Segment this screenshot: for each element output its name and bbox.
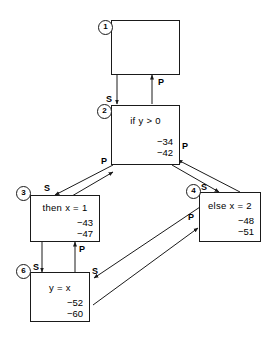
node-4-value-1: −51 xyxy=(238,226,254,237)
edge-label-n1-to-n2-s: S xyxy=(106,95,112,104)
node-6[interactable]: y = x −52 −60 xyxy=(30,272,90,322)
edge-label-n2-to-n1-p: P xyxy=(158,78,164,87)
flow-graph-diagram: 1 if y > 0 −34 −42 2 then x = 1 −43 −47 … xyxy=(0,0,279,345)
node-4-values: −48 −51 xyxy=(238,215,254,237)
node-3[interactable]: then x = 1 −43 −47 xyxy=(30,195,100,242)
edge-label-n4-to-n2-p: P xyxy=(182,142,188,151)
node-6-label: y = x xyxy=(31,282,89,293)
edge-n4-to-n6 xyxy=(94,207,200,278)
edge-label-n6-to-n4-p: P xyxy=(188,213,194,222)
node-4-label: else x = 2 xyxy=(200,200,260,211)
node-1-marker: 1 xyxy=(98,20,113,35)
node-3-marker: 3 xyxy=(16,186,31,201)
node-2-value-1: −42 xyxy=(157,147,173,158)
edge-label-n6-to-n3-p: P xyxy=(79,245,85,254)
node-3-value-1: −47 xyxy=(77,228,93,239)
node-2-label: if y > 0 xyxy=(112,115,179,126)
node-4[interactable]: else x = 2 −48 −51 xyxy=(199,192,261,242)
edge-label-n2-to-n4-s: S xyxy=(201,183,207,192)
node-2-value-0: −34 xyxy=(157,136,173,147)
edge-n6-to-n4 xyxy=(93,228,198,305)
node-4-value-0: −48 xyxy=(238,215,254,226)
node-4-marker: 4 xyxy=(186,184,201,199)
node-6-marker: 6 xyxy=(16,264,31,279)
edge-n2-to-n3 xyxy=(55,165,113,195)
node-6-value-1: −60 xyxy=(67,308,83,319)
edge-label-n3-to-n2-p: P xyxy=(101,157,107,166)
node-6-value-0: −52 xyxy=(67,297,83,308)
node-1[interactable] xyxy=(111,20,180,75)
node-3-values: −43 −47 xyxy=(77,217,93,239)
edge-label-n2-to-n3-s: S xyxy=(44,184,50,193)
node-2[interactable]: if y > 0 −34 −42 xyxy=(111,105,180,165)
edge-label-n4-to-n6-s: S xyxy=(92,267,98,276)
node-2-marker: 2 xyxy=(97,104,112,119)
node-3-label: then x = 1 xyxy=(31,202,99,213)
node-6-values: −52 −60 xyxy=(67,297,83,319)
node-2-values: −34 −42 xyxy=(157,136,173,158)
edge-label-n3-to-n6-s: S xyxy=(33,263,39,272)
node-3-value-0: −43 xyxy=(77,217,93,228)
